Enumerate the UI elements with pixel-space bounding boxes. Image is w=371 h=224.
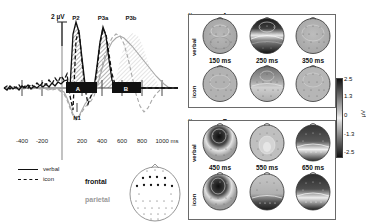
montage-label-frontal: frontal bbox=[85, 178, 107, 185]
topomap-a-verbal-250ms bbox=[246, 17, 288, 55]
topomap-a-verbal-350ms bbox=[292, 17, 334, 55]
colorbar-tick-2_5: 2.5 bbox=[344, 76, 352, 82]
p3a-difference-area bbox=[94, 26, 113, 88]
legend-item-icon: icon bbox=[18, 174, 59, 184]
trace-icon-frontal bbox=[4, 29, 178, 110]
peak-label-n1: N1 bbox=[73, 115, 81, 121]
topomap-a-icon-250ms bbox=[246, 65, 288, 103]
topomap-b-verbal-650ms bbox=[292, 123, 334, 163]
topomap-b-verbal-450ms bbox=[199, 123, 241, 163]
time-label-a-150ms: 150 ms bbox=[199, 57, 241, 64]
head-outline bbox=[130, 167, 180, 221]
x-tick-label-200: 200 bbox=[77, 138, 88, 144]
x-tick-label-minus400: -400 bbox=[16, 138, 29, 144]
time-label-a-250ms: 250 ms bbox=[246, 57, 288, 64]
row-label-a-icon: icon bbox=[191, 70, 197, 98]
montage-label-parietal: parietal bbox=[85, 196, 110, 203]
topomap-b-icon-550ms bbox=[246, 172, 288, 212]
peak-label-p2: P2 bbox=[72, 15, 80, 21]
p3b-difference-area bbox=[114, 33, 160, 88]
topomap-a-verbal-150ms bbox=[199, 17, 241, 55]
colorbar-unit-label: µV bbox=[360, 110, 366, 117]
peak-label-p3a: P3a bbox=[98, 15, 109, 21]
row-label-b-verbal: verbal bbox=[191, 128, 197, 162]
legend-line-solid-icon bbox=[18, 169, 38, 170]
erp-figure: 2 µV A B P2 P3a P3b N1 -400 -200 bbox=[0, 0, 371, 224]
legend-item-verbal: verbal bbox=[18, 164, 59, 174]
time-label-b-450ms: 450 ms bbox=[199, 164, 241, 171]
topomap-a-icon-150ms bbox=[199, 65, 241, 103]
colorbar-tick-neg1_3: -1.3 bbox=[344, 131, 354, 137]
y-scale-label: 2 µV bbox=[51, 13, 65, 21]
topomap-b-icon-650ms bbox=[292, 172, 334, 212]
time-range-box-a-label: A bbox=[76, 86, 81, 92]
topomap-b-verbal-550ms bbox=[246, 123, 288, 163]
row-label-a-verbal: verbal bbox=[191, 22, 197, 56]
x-tick-label-1000ms: 1000 ms bbox=[155, 138, 178, 144]
x-tick-label-minus200: -200 bbox=[36, 138, 49, 144]
time-label-b-650ms: 650 ms bbox=[292, 164, 334, 171]
erp-waveform-panel: 2 µV A B P2 P3a P3b N1 -400 -200 bbox=[0, 0, 186, 224]
legend-label-icon: icon bbox=[43, 174, 54, 184]
colorbar: 2.5 1.3 0 -1.3 -2.5 µV bbox=[336, 76, 371, 158]
colorbar-tick-0: 0 bbox=[344, 112, 347, 118]
x-tick-label-400: 400 bbox=[97, 138, 108, 144]
time-range-box-a bbox=[66, 82, 97, 93]
time-label-b-550ms: 550 ms bbox=[246, 164, 288, 171]
colorbar-tick-1_3: 1.3 bbox=[344, 93, 352, 99]
colorbar-gradient bbox=[336, 78, 343, 158]
electrode-montage-head bbox=[126, 163, 184, 223]
time-label-a-350ms: 350 ms bbox=[292, 57, 334, 64]
time-range-box-b-label: B bbox=[124, 86, 129, 92]
erp-legend: verbal icon bbox=[18, 164, 59, 184]
peak-label-p3b: P3b bbox=[125, 15, 136, 21]
x-tick-label-800: 800 bbox=[137, 138, 148, 144]
topomap-a-icon-350ms bbox=[292, 65, 334, 103]
x-tick-label-600: 600 bbox=[117, 138, 128, 144]
topomap-b-icon-450ms bbox=[199, 172, 241, 212]
row-label-b-icon: icon bbox=[191, 178, 197, 206]
legend-label-verbal: verbal bbox=[43, 164, 59, 174]
colorbar-tick-neg2_5: -2.5 bbox=[344, 149, 354, 155]
legend-line-dashed-icon bbox=[18, 179, 38, 180]
